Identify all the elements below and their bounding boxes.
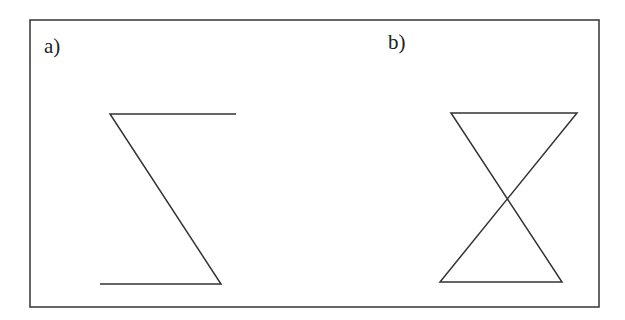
figure-border <box>30 20 599 307</box>
shape-b-hourglass <box>440 113 577 282</box>
panel-a-label: a) <box>44 34 60 59</box>
shape-a-zigzag <box>100 114 236 284</box>
figure-canvas <box>0 0 625 320</box>
panel-b-label: b) <box>388 30 406 55</box>
